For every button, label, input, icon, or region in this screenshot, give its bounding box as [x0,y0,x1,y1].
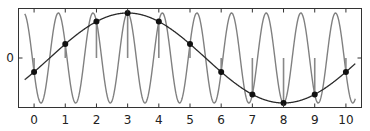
x-tick-label: 9 [311,113,319,127]
sample-marker [62,41,68,47]
sample-marker [343,69,349,75]
x-tick-label: 4 [155,113,163,127]
x-tick-label: 3 [124,113,132,127]
sample-marker [218,69,224,75]
sample-marker [156,19,162,25]
sample-marker [93,19,99,25]
x-tick-label: 10 [338,113,353,127]
sample-marker [187,41,193,47]
x-tick-label: 2 [93,113,101,127]
x-tick-label: 8 [280,113,288,127]
x-tick-label: 1 [61,113,69,127]
sample-marker [312,91,318,97]
x-tick-label: 5 [186,113,194,127]
x-tick-label: 7 [249,113,257,127]
x-tick-label: 0 [30,113,38,127]
aliasing-chart: 012345678910 0 [0,0,370,131]
x-tick-label: 6 [217,113,225,127]
y-tick-label: 0 [6,51,14,65]
sample-marker [249,91,255,97]
sample-marker [31,69,37,75]
plot-area [25,10,356,106]
